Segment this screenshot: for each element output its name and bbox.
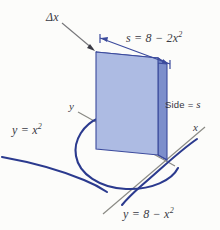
delta-x-leader [62, 23, 95, 51]
label-side-expression-exponent: 2 [178, 30, 182, 39]
label-side-equals-text: Side = [165, 99, 196, 110]
label-curve-bottom-text: y = 8 − x [123, 207, 170, 221]
label-curve-y-equals-8-minus-x-squared: y = 8 − x2 [123, 208, 174, 220]
label-y-axis: y [69, 101, 74, 112]
label-curve-y-equals-x-squared: y = x2 [12, 124, 42, 136]
label-side-equals-s: Side = s [165, 99, 201, 110]
label-x-axis: x [193, 122, 198, 133]
label-side-expression-text: s = 8 − 2x [126, 31, 178, 45]
diagram-graphics [0, 0, 220, 230]
slab-front-face [96, 52, 158, 155]
label-curve-left-exponent: 2 [38, 122, 42, 131]
dimension-arrowhead-left-icon [101, 37, 108, 42]
label-delta-x: Δx [46, 11, 59, 23]
label-curve-bottom-exponent: 2 [170, 206, 174, 215]
delta-x-leader-line [62, 23, 93, 49]
label-side-expression: s = 8 − 2x2 [126, 32, 182, 44]
label-side-equals-variable: s [196, 98, 200, 110]
label-curve-left-text: y = x [12, 123, 38, 137]
figure-canvas: Δx s = 8 − 2x2 Side = s y x y = x2 y = 8… [0, 0, 220, 230]
cross-section-slab [96, 52, 167, 160]
curve-y-equals-x-squared-left-branch [2, 157, 107, 192]
